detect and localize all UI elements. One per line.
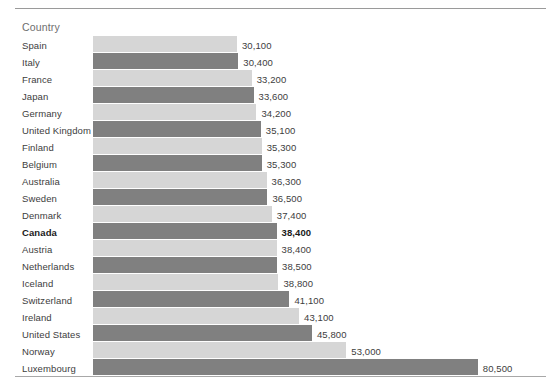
bar [93,138,262,154]
bar [93,206,272,222]
axis-title-country: Country [22,21,60,33]
category-label: Spain [22,39,47,50]
bar [93,53,238,69]
value-label: 35,300 [267,141,297,152]
value-label: 53,000 [351,345,381,356]
bar-row: Spain30,100 [0,36,546,53]
bar [93,274,278,290]
bar [93,257,277,273]
value-label: 35,300 [267,158,297,169]
top-divider-rule [15,8,546,9]
category-label: Luxembourg [22,362,76,373]
bar-row: Germany34,200 [0,104,546,121]
value-label: 36,500 [272,192,302,203]
bar-row: Netherlands38,500 [0,257,546,274]
value-label: 38,500 [282,260,312,271]
bar-row: Luxembourg80,500 [0,359,546,376]
value-label: 33,600 [259,90,289,101]
bar [93,342,346,358]
bar [93,87,254,103]
category-label: France [22,73,52,84]
bar-row: Norway53,000 [0,342,546,359]
bar-row: Italy30,400 [0,53,546,70]
bar-row: United States45,800 [0,325,546,342]
category-label: Japan [22,90,48,101]
bar [93,155,262,171]
bar [93,223,277,239]
value-label: 41,100 [294,294,324,305]
bar [93,359,478,375]
bar [93,291,289,307]
category-label: Iceland [22,277,53,288]
value-label: 37,400 [277,209,307,220]
value-label: 30,100 [242,39,272,50]
bar [93,189,267,205]
category-label: United Kingdom [22,124,91,135]
bar [93,70,252,86]
value-label: 36,300 [272,175,302,186]
category-label: Australia [22,175,60,186]
category-label: Canada [22,226,57,237]
category-label: Italy [22,56,40,67]
bar [93,172,267,188]
value-label: 33,200 [257,73,287,84]
bar-row: Finland35,300 [0,138,546,155]
bar [93,308,299,324]
bar-row: Switzerland41,100 [0,291,546,308]
category-label: United States [22,328,80,339]
value-label: 35,100 [266,124,296,135]
bar-row: Austria38,400 [0,240,546,257]
category-label: Germany [22,107,62,118]
value-label: 80,500 [483,362,513,373]
category-label: Netherlands [22,260,74,271]
value-label: 38,800 [283,277,313,288]
category-label: Finland [22,141,54,152]
category-label: Austria [22,243,52,254]
category-label: Sweden [22,192,57,203]
category-label: Belgium [22,158,57,169]
value-label: 34,200 [261,107,291,118]
bar [93,325,312,341]
value-label: 38,400 [282,243,312,254]
value-label: 38,400 [282,226,312,237]
bar-row: United Kingdom35,100 [0,121,546,138]
bottom-divider-rule [15,376,546,377]
bar [93,104,256,120]
bar-row: Belgium35,300 [0,155,546,172]
bar [93,240,277,256]
bar [93,121,261,137]
category-label: Norway [22,345,55,356]
bar [93,36,237,52]
bar-row: Denmark37,400 [0,206,546,223]
bar-row: Japan33,600 [0,87,546,104]
value-label: 30,400 [243,56,273,67]
bar-row: Canada38,400 [0,223,546,240]
value-label: 45,800 [317,328,347,339]
bar-row: Australia36,300 [0,172,546,189]
country-bar-chart: Country Spain30,100Italy30,400France33,2… [0,0,546,390]
bar-row: Iceland38,800 [0,274,546,291]
bar-row: Sweden36,500 [0,189,546,206]
bar-row: Ireland43,100 [0,308,546,325]
value-label: 43,100 [304,311,334,322]
category-label: Denmark [22,209,61,220]
category-label: Ireland [22,311,52,322]
bar-row: France33,200 [0,70,546,87]
category-label: Switzerland [22,294,72,305]
plot-area: Spain30,100Italy30,400France33,200Japan3… [0,36,546,376]
